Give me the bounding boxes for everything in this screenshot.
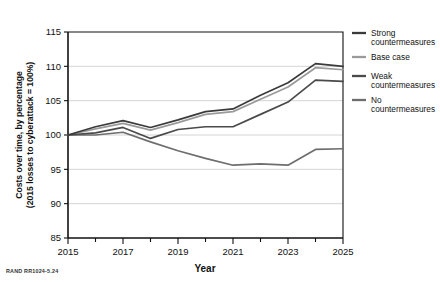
y-tick-label: 100 [45,129,61,140]
series-line-weak-countermeasures [68,80,343,138]
y-tick-label: 105 [45,95,61,106]
y-tick-label: 90 [50,198,61,209]
chart-figure: Costs over time, by percentage (2015 los… [0,0,440,282]
series-line-strong-countermeasures [68,64,343,135]
y-axis-title-line1: Costs over time, by percentage [14,71,24,199]
x-tick-label: 2023 [277,246,298,257]
y-tick-label: 95 [50,164,61,175]
x-tick-label: 2025 [332,246,353,257]
x-axis-ticks: 201520172019202120232025 [57,238,353,257]
y-axis-title-line2: (2015 losses to cyberattack = 100%) [25,62,35,209]
series-line-no-countermeasures [68,132,343,165]
y-axis-title: Costs over time, by percentage (2015 los… [14,62,35,209]
chart-legend: StrongcountermeasuresBase caseWeakcounte… [352,28,435,114]
y-tick-label: 110 [46,61,61,72]
line-chart: Costs over time, by percentage (2015 los… [0,0,440,282]
x-tick-label: 2019 [167,246,188,257]
y-axis-ticks: 859095100105110115 [45,26,68,243]
legend-label: Base case [371,52,410,62]
x-tick-label: 2021 [222,246,243,257]
legend-label: countermeasures [371,104,435,114]
x-tick-label: 2017 [112,246,133,257]
series-line-base-case [68,68,343,135]
series-layer [68,64,343,166]
legend-label: countermeasures [371,37,435,47]
legend-label: countermeasures [371,80,435,90]
x-tick-label: 2015 [57,246,78,257]
x-axis-title: Year [194,263,215,274]
y-gridlines [69,66,343,203]
figure-credit: RAND RR1024-5.24 [6,268,58,274]
y-tick-label: 115 [46,26,61,37]
y-tick-label: 85 [50,232,61,243]
